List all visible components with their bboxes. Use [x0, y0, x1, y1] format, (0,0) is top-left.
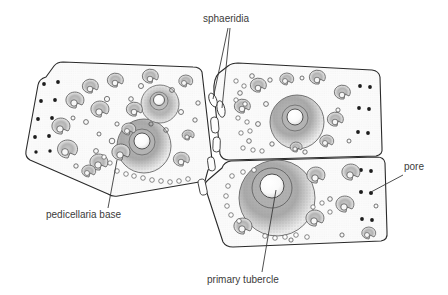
pore-dot — [50, 116, 54, 120]
pore-dot — [366, 131, 370, 135]
label-sphaeridia: sphaeridia — [203, 13, 250, 24]
pore-dot — [33, 135, 37, 139]
pore-dot — [370, 218, 374, 222]
sphaeridium — [213, 137, 221, 152]
pedicellaria-base — [362, 227, 376, 239]
pore-dot — [53, 98, 57, 102]
label-primary-tubercle: primary tubercle — [207, 274, 279, 285]
plate-diagram-svg: sphaeridia pedicellaria base primary tub… — [0, 0, 448, 295]
primary-tubercle-left-upper — [141, 85, 179, 123]
pedicellaria-base — [320, 135, 334, 147]
pore-dot — [369, 169, 373, 173]
pore-dot — [42, 82, 46, 86]
pore-dot — [34, 150, 37, 153]
pore-dot — [56, 80, 60, 84]
pore-dot — [48, 149, 51, 152]
sphaeridium — [207, 157, 216, 172]
sphaeridium — [210, 117, 219, 134]
pedicellaria-base — [280, 73, 294, 85]
figure-root: sphaeridia pedicellaria base primary tub… — [0, 0, 448, 295]
pore-dot — [356, 130, 360, 134]
pore-dot — [47, 134, 51, 138]
pore-dot — [36, 117, 40, 121]
pore-dot — [360, 217, 364, 221]
pore-dot — [357, 106, 361, 110]
pore-dot-labeled — [359, 190, 363, 194]
pedicellaria-base — [82, 165, 96, 177]
label-pore: pore — [404, 161, 424, 172]
primary-tubercle-upper-right — [270, 95, 324, 149]
pedicellaria-base — [122, 123, 136, 135]
label-pedicellaria-base: pedicellaria base — [46, 209, 121, 220]
pedicellaria-base — [179, 75, 193, 87]
pore-dot — [39, 99, 43, 103]
pore-dot — [368, 85, 372, 89]
pore-dot — [367, 107, 371, 111]
pore-dot — [358, 84, 362, 88]
